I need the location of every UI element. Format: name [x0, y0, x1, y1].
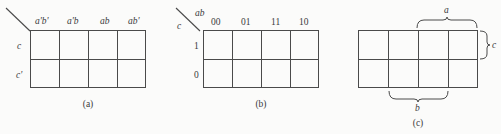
kmap-figure: a'b' a'b ab ab' c c' (a) ab c 00 01 11 1…: [0, 0, 501, 134]
kmap-a-gridline-h1: [30, 59, 146, 60]
kmap-c-brace-b: [388, 91, 449, 102]
kmap-c-gridline-h1: [358, 59, 478, 60]
kmap-b-col-label-1: 00: [211, 18, 221, 28]
kmap-c-brace-b-label: b: [415, 104, 420, 114]
kmap-b-gridline-h1: [203, 59, 319, 60]
kmap-a-row-label-2: c': [16, 71, 22, 81]
kmap-b-caption: (b): [203, 100, 319, 110]
kmap-a-col-label-4: ab': [128, 17, 140, 27]
kmap-b-corner-bottom-label: c: [177, 22, 181, 32]
kmap-a-corner-diagonal: [6, 8, 32, 32]
kmap-a-row-label-1: c: [17, 42, 21, 52]
kmap-b-col-label-3: 11: [271, 18, 280, 28]
kmap-b-corner-top-label: ab: [195, 9, 205, 19]
kmap-c-brace-c: [480, 30, 491, 60]
kmap-b-col-label-2: 01: [241, 18, 251, 28]
kmap-c-brace-a-label: a: [444, 6, 449, 16]
kmap-b-row-label-2: 0: [194, 71, 199, 81]
kmap-c-brace-c-label: c: [492, 41, 496, 51]
kmap-b-row-label-1: 1: [194, 42, 199, 52]
kmap-a-col-label-2: a'b: [67, 17, 79, 27]
kmap-b-col-label-4: 10: [299, 18, 309, 28]
kmap-a-caption: (a): [30, 100, 146, 110]
kmap-c-brace-a: [416, 17, 478, 28]
kmap-a-col-label-1: a'b': [35, 17, 49, 27]
kmap-a-col-label-3: ab: [100, 17, 110, 27]
kmap-c-caption: (c): [388, 119, 448, 129]
